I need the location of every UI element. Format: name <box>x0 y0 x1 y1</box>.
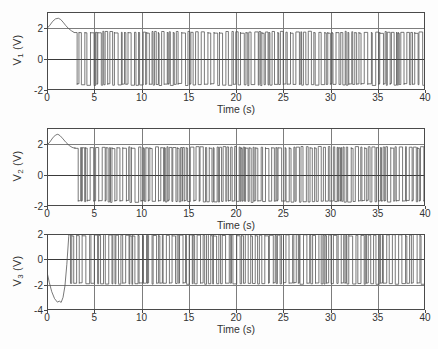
figure-three-panel-timeseries: -2020510152025303540Time (s)V1 (V)-20205… <box>0 0 438 349</box>
waveform-trace-3 <box>0 0 438 349</box>
signal-path <box>47 234 425 302</box>
